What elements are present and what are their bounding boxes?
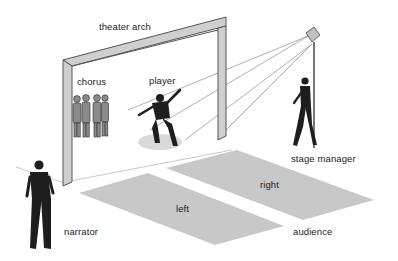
label-chorus: chorus xyxy=(77,76,106,87)
label-stage-manager: stage manager xyxy=(291,153,356,164)
label-left: left xyxy=(176,203,189,214)
label-narrator: narrator xyxy=(64,226,98,237)
label-player: player xyxy=(149,75,175,86)
chorus-group xyxy=(73,95,109,137)
label-audience: audience xyxy=(293,226,332,237)
theater-diagram: theater arch chorus player stage manager… xyxy=(0,0,398,261)
label-right: right xyxy=(260,179,279,190)
narrator-figure xyxy=(27,160,53,249)
label-theater-arch: theater arch xyxy=(99,21,151,32)
